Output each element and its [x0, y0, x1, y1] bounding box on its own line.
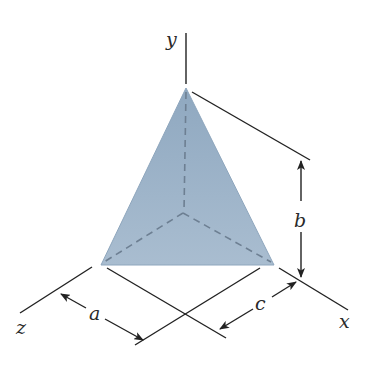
b-dimension-label: b — [294, 209, 306, 231]
c-arrow-left — [220, 309, 253, 329]
tetrahedron-face — [101, 88, 274, 265]
x-axis-label: x — [339, 310, 350, 332]
a-arrow-right — [105, 319, 143, 340]
a-extension-line — [107, 268, 226, 338]
z-axis-label: z — [15, 316, 27, 338]
c-dimension-label: c — [255, 292, 266, 314]
x-axis — [279, 268, 348, 310]
c-extension-line — [135, 268, 260, 345]
c-arrow-right — [272, 282, 296, 297]
a-dimension-label: a — [89, 302, 100, 324]
a-arrow-left — [61, 294, 86, 308]
y-axis-label: y — [165, 28, 177, 50]
tetrahedron-diagram: y b x z a c — [0, 0, 373, 367]
